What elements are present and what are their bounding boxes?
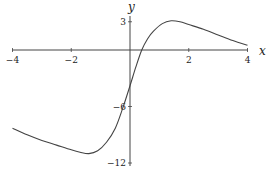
x-axis-label: x [259, 44, 266, 58]
x-tick-label: −2 [65, 55, 78, 65]
x-tick-label: −4 [6, 55, 20, 65]
y-axis-label: y [127, 0, 135, 14]
x-axis: −4−224 x [6, 44, 266, 65]
y-tick-label: −12 [107, 158, 126, 168]
x-ticks: −4−224 [6, 48, 251, 65]
function-plot: −4−224 x 3−6−12 y [0, 0, 275, 172]
x-tick-label: 2 [186, 55, 192, 65]
x-tick-label: 4 [245, 55, 251, 65]
y-tick-label: 3 [120, 17, 126, 27]
